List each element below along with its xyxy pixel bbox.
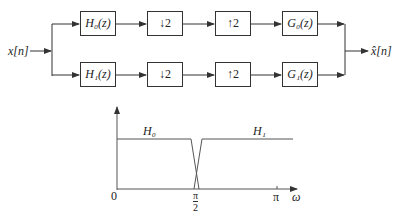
downsampler-lower: ↓2 [147, 62, 183, 87]
omega-axis-label: ω [292, 191, 300, 203]
upsampler-upper: ↑2 [215, 11, 251, 36]
h1-curve-label: H₁ [253, 125, 266, 137]
half-pi-numerator: π [193, 191, 198, 202]
half-pi-denominator: 2 [193, 203, 198, 213]
g1-filter-block: G₁(z) [282, 62, 318, 87]
upsampler-lower: ↑2 [215, 62, 251, 87]
downsampler-upper: ↓2 [147, 11, 183, 36]
diagram-lines [0, 0, 395, 219]
frequency-response-plot [117, 107, 297, 190]
h0-filter-block: H₀(z) [80, 11, 116, 36]
h1-filter-block: H₁(z) [80, 62, 116, 87]
pi-tick-label: π [273, 191, 279, 203]
input-label: x[n] [8, 45, 29, 57]
g0-filter-block: G₀(z) [282, 11, 318, 36]
output-label: x̂[n] [371, 45, 392, 57]
origin-tick-label: 0 [111, 190, 117, 202]
h0-curve-label: H₀ [143, 125, 156, 137]
